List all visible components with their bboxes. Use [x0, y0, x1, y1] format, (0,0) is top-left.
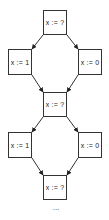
node-top-assign-unknown: x := ? [43, 10, 67, 35]
node-lower-left-assign-one: x := 1 [8, 132, 32, 158]
node-lower-right-assign-zero: x := 0 [78, 132, 102, 158]
edge-n1-n2 [32, 35, 43, 49]
edge-n4-n6 [67, 117, 78, 132]
edge-n4-n5 [32, 117, 43, 132]
edge-n5-n7 [32, 158, 43, 175]
edge-n3-n4 [67, 75, 78, 92]
node-middle-assign-unknown: x := ? [43, 92, 67, 117]
node-bottom-assign-unknown: x := ? [43, 175, 67, 200]
node-upper-right-assign-zero: x := 0 [78, 49, 102, 75]
node-upper-left-assign-one: x := 1 [8, 49, 32, 75]
edge-n1-n3 [67, 35, 78, 49]
edge-n6-n7 [67, 158, 78, 175]
edge-n2-n4 [32, 75, 43, 92]
continuation-ellipsis: ... [49, 203, 63, 212]
